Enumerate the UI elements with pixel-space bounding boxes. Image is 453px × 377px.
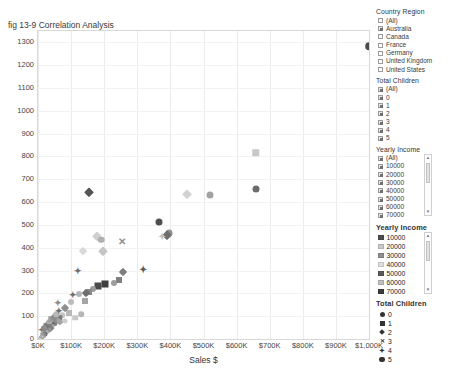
- filter-total-children-item[interactable]: 5: [376, 134, 453, 142]
- checkbox-icon[interactable]: [378, 51, 383, 56]
- filter-yearly-income-item[interactable]: 10000: [376, 162, 453, 170]
- data-point-marker[interactable]: [73, 315, 79, 321]
- filter-yearly-income-item[interactable]: 70000: [376, 211, 453, 219]
- data-point-marker[interactable]: [102, 281, 109, 288]
- scroll-up-icon[interactable]: ▲: [425, 155, 431, 161]
- data-point-marker[interactable]: [38, 338, 42, 339]
- data-point-marker[interactable]: [252, 185, 259, 192]
- data-point-marker[interactable]: ✦: [55, 308, 63, 316]
- checkbox-icon[interactable]: [378, 213, 383, 218]
- data-point-marker[interactable]: [118, 267, 126, 275]
- filter-yearly-income-item[interactable]: 30000: [376, 179, 453, 187]
- filter-total-children-item[interactable]: 1: [376, 102, 453, 110]
- gridline-horizontal: [38, 88, 369, 89]
- filter-country-region-item[interactable]: United States: [376, 66, 453, 74]
- filter-yearly-income-item[interactable]: (All): [376, 154, 453, 162]
- checkbox-icon[interactable]: [378, 156, 383, 161]
- legend-total-children-item[interactable]: ✦4: [376, 346, 453, 355]
- x-axis-tick-label: $300K: [126, 341, 148, 350]
- checkbox-icon[interactable]: [378, 18, 383, 23]
- checkbox-icon[interactable]: [378, 103, 383, 108]
- data-point-marker[interactable]: [111, 280, 117, 286]
- filter-country-region-item[interactable]: Australia: [376, 25, 453, 33]
- filter-total-children-item[interactable]: 3: [376, 118, 453, 126]
- filter-total-children-list[interactable]: (All)012345: [376, 85, 453, 142]
- legend-yearly-income-item[interactable]: 40000: [376, 260, 453, 269]
- filter-country-region-item[interactable]: (All): [376, 17, 453, 25]
- checkbox-icon[interactable]: [378, 95, 383, 100]
- checkbox-icon[interactable]: [378, 136, 383, 141]
- data-point-marker[interactable]: ✦: [138, 265, 147, 274]
- filter-yearly-income-item[interactable]: 50000: [376, 195, 453, 203]
- data-point-marker[interactable]: ✦: [74, 268, 82, 276]
- legend-yearly-income-item[interactable]: 70000: [376, 287, 453, 296]
- filter-yearly-income-item[interactable]: 40000: [376, 187, 453, 195]
- checkbox-icon[interactable]: [378, 43, 383, 48]
- checkbox-icon[interactable]: [378, 164, 383, 169]
- data-point-marker[interactable]: [116, 277, 122, 283]
- scrollbar-thumb[interactable]: [426, 241, 430, 261]
- data-point-marker[interactable]: [252, 149, 260, 157]
- filter-country-region-list[interactable]: (All)AustraliaCanadaFranceGermanyUnited …: [376, 17, 453, 74]
- filter-country-region-item[interactable]: Canada: [376, 33, 453, 41]
- legend-yearly-income-list[interactable]: 10000200003000040000500006000070000: [376, 233, 453, 296]
- checkbox-icon[interactable]: [378, 180, 383, 185]
- checkbox-icon[interactable]: [378, 188, 383, 193]
- x-axis-tick-label: $600K: [226, 341, 248, 350]
- legend-yearly-income-item[interactable]: 50000: [376, 269, 453, 278]
- filter-yearly-income-title: Yearly Income: [376, 146, 453, 153]
- checkbox-icon[interactable]: [378, 87, 383, 92]
- data-point-marker[interactable]: [365, 42, 369, 50]
- data-point-marker[interactable]: ✦: [158, 232, 167, 241]
- legend-yearly-income-item[interactable]: 30000: [376, 251, 453, 260]
- filter-total-children-item[interactable]: (All): [376, 85, 453, 93]
- data-point-marker[interactable]: [63, 319, 68, 324]
- data-point-marker[interactable]: [156, 219, 163, 226]
- legend-yearly-income-item[interactable]: 10000: [376, 233, 453, 242]
- plot-area[interactable]: ✦✕✦✦✦✦✦✦✦✦: [37, 30, 370, 340]
- legend-yearly-income-scrollbar[interactable]: ▲ ▼: [424, 232, 432, 294]
- scroll-up-icon[interactable]: ▲: [425, 233, 431, 239]
- data-point-marker[interactable]: [79, 312, 85, 318]
- legend-yearly-income-item[interactable]: 20000: [376, 242, 453, 251]
- filter-country-region-item[interactable]: United Kingdom: [376, 57, 453, 65]
- checkbox-icon[interactable]: [378, 111, 383, 116]
- data-point-marker[interactable]: [207, 192, 214, 199]
- legend-total-children-item[interactable]: 2: [376, 328, 453, 337]
- filter-total-children-item[interactable]: 4: [376, 126, 453, 134]
- data-point-marker[interactable]: ✕: [118, 237, 127, 246]
- filter-yearly-income-list[interactable]: (All)10000200003000040000500006000070000: [376, 154, 453, 220]
- legend-total-children-list[interactable]: 012✕3✦45: [376, 310, 453, 364]
- legend-yearly-income-item[interactable]: 60000: [376, 278, 453, 287]
- scroll-down-icon[interactable]: ▼: [425, 209, 431, 215]
- checkbox-icon[interactable]: [378, 26, 383, 31]
- legend-total-children-item[interactable]: ✕3: [376, 337, 453, 346]
- data-point-marker[interactable]: [68, 299, 74, 305]
- filter-yearly-income-scrollbar[interactable]: ▲ ▼: [424, 154, 432, 216]
- checkbox-icon[interactable]: [378, 120, 383, 125]
- legend-total-children-item[interactable]: 0: [376, 310, 453, 319]
- filter-total-children-item[interactable]: 2: [376, 110, 453, 118]
- filter-country-region-item[interactable]: France: [376, 41, 453, 49]
- filter-yearly-income-item[interactable]: 60000: [376, 203, 453, 211]
- data-point-marker[interactable]: [82, 298, 88, 304]
- filter-total-children-item[interactable]: 0: [376, 94, 453, 102]
- data-point-marker[interactable]: [182, 189, 191, 198]
- data-point-marker[interactable]: [98, 236, 105, 243]
- checkbox-icon[interactable]: [378, 34, 383, 39]
- legend-total-children-item[interactable]: 5: [376, 355, 453, 364]
- data-point-marker[interactable]: [66, 310, 72, 316]
- filter-yearly-income-item[interactable]: 20000: [376, 171, 453, 179]
- legend-total-children-item[interactable]: 1: [376, 319, 453, 328]
- checkbox-icon[interactable]: [378, 205, 383, 210]
- checkbox-icon[interactable]: [378, 67, 383, 72]
- checkbox-icon[interactable]: [378, 197, 383, 202]
- data-point-marker[interactable]: [84, 187, 93, 196]
- filter-country-region-item[interactable]: Germany: [376, 49, 453, 57]
- checkbox-icon[interactable]: [378, 128, 383, 133]
- scrollbar-thumb[interactable]: [426, 163, 430, 183]
- scroll-down-icon[interactable]: ▼: [425, 287, 431, 293]
- data-point-marker[interactable]: ✦: [54, 299, 62, 307]
- checkbox-icon[interactable]: [378, 59, 383, 64]
- checkbox-icon[interactable]: [378, 172, 383, 177]
